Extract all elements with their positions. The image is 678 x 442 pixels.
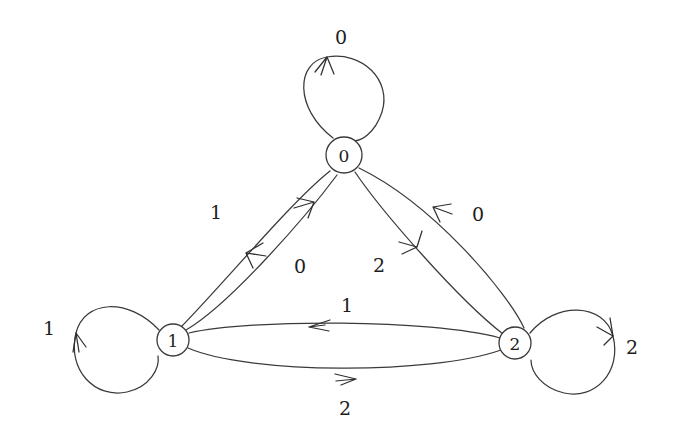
self-loop-node-0[interactable]: 0 [304, 26, 384, 141]
self-loop-node-2-label: 2 [626, 336, 638, 358]
edge-0-to-1-arrowhead [246, 243, 266, 268]
edge-0-to-2-label: 2 [373, 254, 385, 276]
state-transition-diagram: 0 1 2 1 0 [0, 0, 678, 442]
self-loop-node-1-path [74, 307, 159, 393]
self-loop-node-1-label: 1 [43, 317, 55, 339]
self-loop-node-0-path [304, 56, 384, 140]
edge-1-to-0-path [186, 175, 337, 330]
self-loop-group: 0 1 2 [43, 26, 638, 394]
edge-1-to-2-label: 2 [339, 397, 351, 419]
edge-2-to-0-arrowhead [433, 204, 452, 222]
node-group: 0 1 2 [157, 137, 531, 359]
edge-0-to-1[interactable]: 1 [181, 171, 330, 327]
state-node-0[interactable]: 0 [326, 137, 362, 173]
edge-0-to-2[interactable]: 2 [355, 172, 503, 334]
self-loop-node-2-path [530, 310, 615, 394]
edge-1-to-2[interactable]: 2 [188, 348, 501, 419]
edge-2-to-0-path [359, 168, 524, 328]
edge-group: 1 0 0 2 1 [181, 168, 524, 419]
edge-2-to-0[interactable]: 0 [359, 168, 524, 328]
edge-2-to-1-arrowhead [309, 320, 330, 331]
state-node-1[interactable]: 1 [157, 324, 189, 356]
self-loop-node-2[interactable]: 2 [530, 310, 638, 394]
edge-0-to-1-path [181, 171, 330, 327]
edge-2-to-1-path [189, 323, 500, 338]
diagram-canvas: 0 1 2 1 0 [0, 0, 678, 442]
edge-1-to-2-arrowhead [335, 374, 356, 385]
edge-2-to-1[interactable]: 1 [189, 294, 500, 338]
self-loop-node-1[interactable]: 1 [43, 307, 159, 393]
state-node-0-label: 0 [339, 146, 350, 166]
edge-1-to-2-path [188, 348, 501, 368]
edge-1-to-0-label: 0 [294, 255, 306, 277]
edge-2-to-1-label: 1 [341, 294, 353, 316]
edge-1-to-0[interactable]: 0 [186, 175, 337, 330]
self-loop-node-0-label: 0 [335, 26, 347, 48]
state-node-2[interactable]: 2 [499, 327, 531, 359]
state-node-2-label: 2 [510, 334, 521, 354]
state-node-1-label: 1 [168, 331, 179, 351]
edge-0-to-1-label: 1 [210, 201, 222, 223]
edge-0-to-2-path [355, 172, 503, 334]
edge-2-to-0-label: 0 [472, 203, 484, 225]
